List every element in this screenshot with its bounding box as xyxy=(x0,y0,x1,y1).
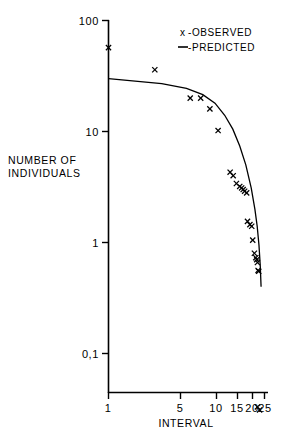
observed-point xyxy=(231,173,236,178)
x-axis-tick-labels: 1 5 10 15 20 25 xyxy=(105,402,272,414)
observed-data-points xyxy=(106,45,262,413)
axis-lines xyxy=(108,20,268,393)
y-tick-label-1: 1 xyxy=(92,237,99,249)
observed-point xyxy=(244,190,249,195)
observed-point xyxy=(188,95,193,100)
y-tick-label-0-1: 0,1 xyxy=(82,348,99,360)
observed-point xyxy=(216,128,221,133)
x-tick-label-10: 10 xyxy=(209,402,222,414)
observed-point xyxy=(250,238,255,243)
y-axis-title-line1: NUMBER OF xyxy=(8,154,76,166)
observed-point xyxy=(207,106,212,111)
y-axis-tick-labels: 100 10 1 0,1 xyxy=(79,15,99,360)
legend-label-predicted: -PREDICTED xyxy=(188,42,255,53)
x-tick-label-5: 5 xyxy=(177,402,184,414)
chart-legend: x -OBSERVED -PREDICTED xyxy=(178,27,255,53)
chart-figure: 100 10 1 0,1 1 5 10 15 20 25 INTERVAL NU… xyxy=(0,0,283,433)
x-tick-label-25: 25 xyxy=(258,402,271,414)
observed-marker-icon: x xyxy=(180,27,186,38)
legend-item-predicted: -PREDICTED xyxy=(178,42,255,53)
x-axis-title: INTERVAL xyxy=(158,417,213,429)
x-tick-label-15: 15 xyxy=(230,402,243,414)
y-axis-title-line2: INDIVIDUALS xyxy=(8,167,81,179)
predicted-curve xyxy=(109,79,262,287)
x-tick-label-1: 1 xyxy=(105,402,112,414)
observed-point xyxy=(252,251,257,256)
y-tick-label-10: 10 xyxy=(86,126,99,138)
observed-point xyxy=(198,95,203,100)
observed-point xyxy=(249,224,254,229)
observed-point xyxy=(152,67,157,72)
legend-item-observed: x -OBSERVED xyxy=(180,27,252,38)
legend-label-observed: -OBSERVED xyxy=(188,27,252,38)
y-tick-label-100: 100 xyxy=(79,15,99,27)
y-axis-title: NUMBER OF INDIVIDUALS xyxy=(8,154,81,179)
